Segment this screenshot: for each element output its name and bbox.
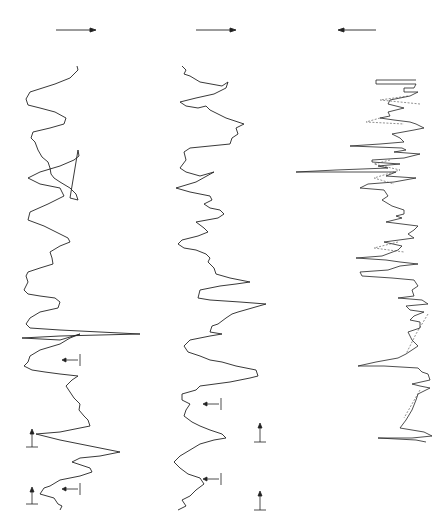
porosity-profile	[296, 80, 432, 442]
neutron-curve	[174, 66, 266, 510]
gamma-ray-curve	[22, 66, 140, 510]
right-arrow-icon	[90, 28, 96, 32]
well-log-diagram	[0, 0, 444, 528]
right-arrow-icon	[230, 28, 236, 32]
header-arrows	[56, 28, 376, 32]
left-arrow-icon	[338, 28, 344, 32]
